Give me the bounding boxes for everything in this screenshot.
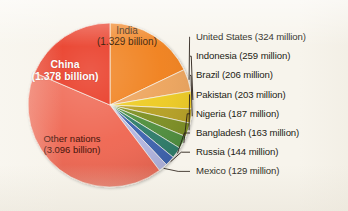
leader-line-mexico	[164, 168, 190, 171]
legend-item-label: Brazil (206 million)	[196, 69, 273, 80]
legend-item-label: Pakistan (203 million)	[196, 89, 286, 100]
leader-line-united-states	[189, 37, 190, 80]
legend-item-nigeria: Nigeria (187 million)	[196, 108, 279, 119]
legend-item-bangladesh: Bangladesh (163 million)	[196, 127, 299, 138]
legend-item-label: Bangladesh (163 million)	[196, 127, 299, 138]
legend-item-label: United States (324 million)	[196, 31, 306, 42]
legend-item-label: Russia (144 million)	[196, 146, 278, 157]
legend-item-united-states: United States (324 million)	[196, 31, 306, 42]
legend-item-pakistan: Pakistan (203 million)	[196, 89, 286, 100]
legend-item-label: Indonesia (259 million)	[196, 50, 290, 61]
pie-sheen-overlay	[28, 23, 192, 187]
pie-chart-figure: China (1.378 billion) India (1.329 billi…	[0, 0, 348, 211]
legend-item-russia: Russia (144 million)	[196, 146, 278, 157]
legend-item-indonesia: Indonesia (259 million)	[196, 50, 290, 61]
legend-item-mexico: Mexico (129 million)	[196, 165, 279, 176]
legend-item-brazil: Brazil (206 million)	[196, 69, 273, 80]
legend-item-label: Nigeria (187 million)	[196, 108, 279, 119]
legend-item-label: Mexico (129 million)	[196, 165, 279, 176]
